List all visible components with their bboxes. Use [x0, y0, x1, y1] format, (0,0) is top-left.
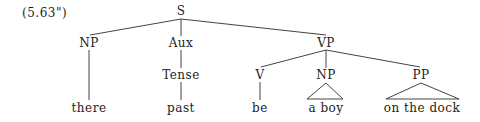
- triangle-np: [307, 83, 343, 99]
- branch-s-vp: [181, 19, 326, 35]
- leaf-be: be: [252, 101, 268, 115]
- leaf-past: past: [167, 101, 195, 115]
- branch-s-np: [90, 19, 181, 35]
- node-np-subject: NP: [79, 36, 99, 50]
- node-v: V: [255, 68, 264, 82]
- node-vp: VP: [317, 36, 335, 50]
- leaf-there: there: [72, 101, 107, 115]
- node-np-object: NP: [316, 68, 336, 82]
- node-tense: Tense: [162, 68, 200, 82]
- node-pp: PP: [412, 68, 429, 82]
- branch-vp-pp: [326, 50, 420, 67]
- node-s: S: [177, 4, 186, 18]
- node-aux: Aux: [169, 36, 194, 50]
- leaf-on-the-dock: on the dock: [384, 101, 461, 115]
- example-number: (5.63"): [22, 6, 67, 20]
- branch-vp-v: [261, 50, 326, 67]
- leaf-a-boy: a boy: [308, 101, 343, 115]
- triangle-pp: [386, 83, 459, 99]
